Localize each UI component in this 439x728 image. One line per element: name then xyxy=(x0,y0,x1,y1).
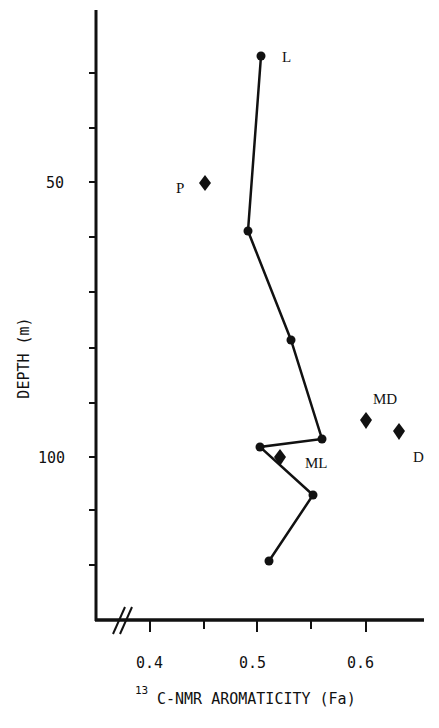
x-ticks xyxy=(150,620,366,632)
point-119m xyxy=(265,557,274,566)
x-tick-label-0.6: 0.6 xyxy=(347,654,374,672)
diamond-P xyxy=(199,175,211,191)
x-axis-title-superscript: 13 xyxy=(135,684,148,697)
point-107m xyxy=(309,491,318,500)
x-tick-label-0.5: 0.5 xyxy=(239,654,266,672)
x-tick-label-0.4: 0.4 xyxy=(136,654,163,672)
label-ML: ML xyxy=(305,455,328,471)
point-98m xyxy=(256,443,265,452)
x-axis-title: C-NMR AROMATICITY (Fa) xyxy=(157,690,356,708)
y-tick-label-50: 50 xyxy=(46,174,64,192)
y-tick-label-100: 100 xyxy=(38,449,65,467)
aromaticity-depth-chart: 50 100 0.4 0.5 0.6 DEPTH (m) 13 C-NMR AR… xyxy=(0,0,439,728)
label-MD: MD xyxy=(373,391,397,407)
label-P: P xyxy=(176,180,184,196)
diamond-D xyxy=(393,423,405,440)
profile-line xyxy=(248,56,322,561)
point-L xyxy=(257,52,266,61)
label-L: L xyxy=(282,49,291,65)
point-97m xyxy=(318,435,327,444)
point-79m xyxy=(287,336,296,345)
point-59m xyxy=(244,227,253,236)
diamond-ML xyxy=(274,449,286,466)
diamond-MD xyxy=(360,412,372,429)
y-axis-title: DEPTH (m) xyxy=(15,317,33,398)
label-D: D xyxy=(413,449,424,465)
sample-markers xyxy=(199,175,405,466)
